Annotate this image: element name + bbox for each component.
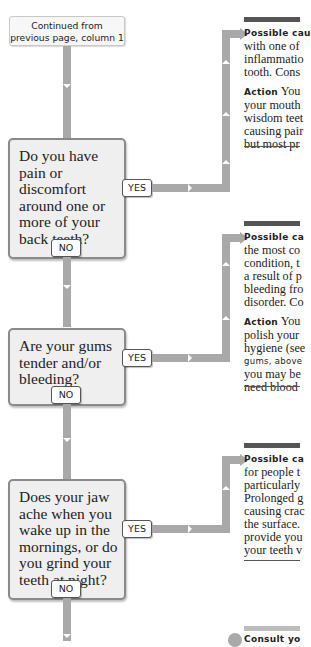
final-consult: Consult yo — [244, 632, 301, 646]
continued-line-2: previous page, column 1 — [10, 32, 124, 44]
chevron-up-icon — [222, 60, 230, 64]
continued-line-1: Continued from — [10, 20, 124, 32]
cause-label: Possible ca — [244, 232, 304, 242]
result-bar — [244, 17, 300, 22]
consult-label: Consult yo — [244, 634, 301, 644]
chevron-down-icon — [63, 634, 71, 638]
result-line: but most pr — [244, 138, 311, 151]
connector-up-2 — [222, 242, 230, 362]
action-label: Action — [244, 87, 278, 97]
question-line: wake up in the — [19, 522, 118, 539]
connector-top-1 — [222, 30, 242, 38]
chevron-up-icon — [222, 112, 230, 116]
result-line: your teeth v — [244, 544, 305, 557]
question-line: around one or — [19, 198, 118, 215]
result-line: You — [281, 84, 301, 98]
continued-from-box: Continued from previous page, column 1 — [9, 16, 125, 46]
chevron-down-icon — [63, 84, 71, 88]
yes-tag-q2[interactable]: YES — [122, 349, 152, 367]
connector-top-2 — [222, 234, 242, 242]
result-line: You — [281, 314, 301, 328]
chevron-down-icon — [63, 285, 71, 289]
question-line: ache when you — [19, 506, 118, 523]
result-2: Possible ca the most co condition, t a r… — [244, 230, 305, 394]
question-line: Are your gums — [19, 338, 118, 355]
connector-down — [63, 257, 71, 327]
question-line: you grind your — [19, 555, 118, 572]
question-line: pain or — [19, 165, 118, 182]
action-label: Action — [244, 317, 278, 327]
chevron-right-icon — [188, 354, 192, 362]
final-bar — [244, 626, 300, 631]
question-line: mornings, or do — [19, 539, 118, 556]
result-rule — [244, 386, 300, 387]
connector-down — [63, 46, 71, 138]
chevron-up-icon — [222, 316, 230, 320]
result-bar — [244, 221, 300, 226]
yes-tag-q1[interactable]: YES — [122, 179, 152, 197]
result-line: tooth. Cons — [244, 66, 311, 79]
no-tag-q3[interactable]: NO — [51, 580, 81, 598]
connector-top-3 — [222, 456, 242, 464]
result-3: Possible ca for people t particularly Pr… — [244, 452, 305, 557]
result-rule — [244, 146, 300, 147]
chevron-right-icon — [188, 184, 192, 192]
question-line: more of your — [19, 214, 118, 231]
question-line: discomfort — [19, 181, 118, 198]
cause-label: Possible ca — [244, 454, 304, 464]
connector-down — [63, 404, 71, 480]
no-tag-q1[interactable]: NO — [51, 239, 81, 257]
result-bar — [244, 443, 300, 448]
result-1: Possible cau with one of inflammatio too… — [244, 26, 311, 151]
chevron-up-icon — [222, 160, 230, 164]
question-line: Does your jaw — [19, 489, 118, 506]
no-tag-q2[interactable]: NO — [51, 386, 81, 404]
result-rule — [244, 560, 300, 561]
result-line: need blood — [244, 381, 305, 394]
question-line: Do you have — [19, 148, 118, 165]
chevron-up-icon — [222, 262, 230, 266]
result-line: disorder. Co — [244, 296, 305, 309]
arrow-tip-icon — [228, 633, 242, 647]
yes-tag-q3[interactable]: YES — [122, 520, 152, 538]
question-line: tender and/or — [19, 355, 118, 372]
chevron-up-icon — [222, 486, 230, 490]
connector-up-3 — [222, 464, 230, 533]
chevron-down-icon — [63, 438, 71, 442]
chevron-right-icon — [188, 525, 192, 533]
cause-label: Possible cau — [244, 28, 311, 38]
result-line: hygiene (see — [244, 342, 305, 355]
